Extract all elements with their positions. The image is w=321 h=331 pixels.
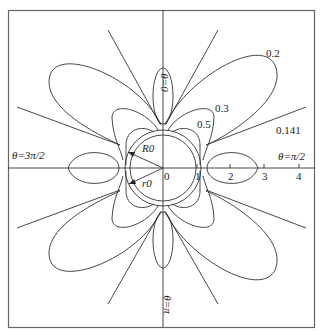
tick-4: 4	[296, 171, 302, 182]
label-theta-bottom: θ=π	[162, 295, 173, 313]
label-origin: 0	[164, 171, 170, 182]
label-theta-right: θ=π/2	[278, 151, 305, 162]
contour-label-0.2: 0.2	[266, 48, 280, 59]
contour-label-0.141: 0.141	[276, 125, 301, 136]
label-theta-top: θ=0	[159, 73, 170, 91]
label-r0: r0	[142, 178, 152, 189]
tick-1: 1	[195, 171, 201, 182]
label-theta-left: θ=3π/2	[12, 150, 44, 161]
tick-2: 2	[228, 171, 234, 182]
contour-label-0.3: 0.3	[215, 103, 229, 114]
contour-label-0.5: 0.5	[197, 119, 211, 130]
label-R0: R0	[142, 143, 154, 154]
tick-3: 3	[262, 171, 268, 182]
